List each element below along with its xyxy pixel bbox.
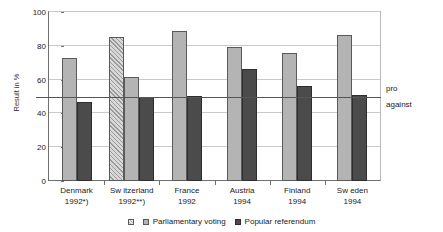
x-axis-category-label: Sw eden1994	[325, 185, 380, 207]
x-label-year: 1992**)	[104, 196, 159, 207]
legend-item[interactable]: Popular referendum	[235, 217, 316, 226]
x-axis-tick	[159, 181, 160, 185]
y-tick-mark	[61, 181, 64, 182]
x-axis-tick	[270, 181, 271, 185]
bar-parliament	[124, 77, 139, 181]
x-axis-tick	[325, 181, 326, 185]
y-tick-label: 40	[20, 109, 46, 118]
bar-referendum	[352, 95, 367, 181]
x-label-country: Finland	[270, 185, 325, 196]
bar-parliament	[337, 35, 352, 181]
bar-parliament	[172, 31, 187, 181]
x-label-year: 1994	[270, 196, 325, 207]
bar-parliament	[62, 58, 77, 181]
threshold-line-50	[36, 97, 381, 98]
x-label-country: Sw eden	[325, 185, 380, 196]
threshold-label-pro: pro	[386, 84, 398, 93]
x-label-country: Sw itzerland	[104, 185, 159, 196]
bar-referendum	[297, 86, 312, 181]
bar-referendum	[242, 69, 257, 181]
y-tick-label: 20	[20, 143, 46, 152]
x-label-year: 1994	[325, 196, 380, 207]
x-axis-category-label: Austria1994	[215, 185, 270, 207]
y-tick-label: 100	[20, 8, 46, 17]
x-axis-category-label: Denmark1992*)	[49, 185, 104, 207]
x-axis-tick	[215, 181, 216, 185]
y-tick-label: 80	[20, 41, 46, 50]
y-axis-ticks: 020406080100	[16, 0, 46, 232]
bar-referendum	[77, 102, 92, 181]
chart-legend: Parliamentary votingPopular referendum	[0, 217, 443, 226]
x-label-country: France	[159, 185, 214, 196]
x-label-country: Denmark	[49, 185, 104, 196]
x-axis-category-label: Finland1994	[270, 185, 325, 207]
bar-special	[109, 37, 124, 181]
bar-parliament	[282, 53, 297, 181]
bar-chart: Result in % 020406080100 pro against Den…	[0, 0, 443, 232]
y-tick-label: 0	[20, 177, 46, 186]
legend-swatch-referendum	[235, 219, 241, 225]
legend-swatch-parliament	[143, 219, 149, 225]
x-axis-labels: Denmark1992*)Sw itzerland1992**)France19…	[49, 185, 380, 215]
bar-parliament	[227, 47, 242, 181]
x-axis-tick	[104, 181, 105, 185]
threshold-label-against: against	[386, 100, 412, 109]
x-label-year: 1992*)	[49, 196, 104, 207]
legend-item[interactable]	[128, 219, 134, 225]
x-axis-category-label: Sw itzerland1992**)	[104, 185, 159, 207]
legend-label: Popular referendum	[245, 217, 316, 226]
legend-item[interactable]: Parliamentary voting	[143, 217, 226, 226]
x-label-year: 1992	[159, 196, 214, 207]
y-tick-label: 60	[20, 75, 46, 84]
legend-swatch-special	[128, 219, 134, 225]
bar-referendum	[187, 96, 202, 181]
x-axis-category-label: France1992	[159, 185, 214, 207]
x-label-year: 1994	[215, 196, 270, 207]
legend-label: Parliamentary voting	[153, 217, 226, 226]
bar-referendum	[139, 97, 154, 182]
x-label-country: Austria	[215, 185, 270, 196]
